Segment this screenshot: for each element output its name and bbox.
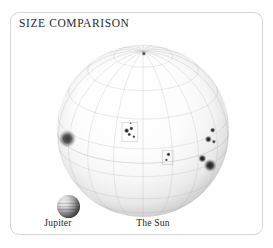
sun-disc bbox=[57, 45, 229, 217]
body-label-sun: The Sun bbox=[106, 218, 200, 228]
jupiter-cloud-bands bbox=[57, 195, 80, 218]
body-label-jupiter: Jupiter bbox=[11, 218, 105, 228]
sun-illustration bbox=[57, 45, 229, 217]
jupiter-illustration bbox=[57, 195, 80, 218]
page-title: SIZE COMPARISON bbox=[19, 17, 130, 29]
jupiter-disc bbox=[57, 195, 80, 218]
size-comparison-card: SIZE COMPARISON Jupiter The Sun bbox=[10, 12, 263, 235]
sunspot-layer bbox=[57, 45, 229, 217]
